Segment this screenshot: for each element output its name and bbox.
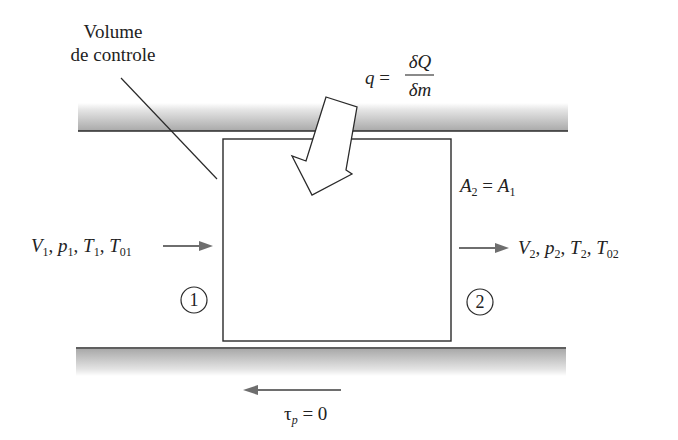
diagram-canvas xyxy=(0,0,678,440)
inlet-flow-arrow-icon xyxy=(163,241,213,251)
wall-shear-arrow-icon xyxy=(243,385,341,395)
heat-label: q = xyxy=(365,68,390,87)
inlet-state-label: V1, p1, T1, T01 xyxy=(31,236,132,258)
outlet-state-label: V2, p2, T2, T02 xyxy=(518,238,619,260)
control-volume-label-line1: Volume xyxy=(58,22,168,41)
control-volume-label-line2: de controle xyxy=(58,45,168,64)
heat-eq-sign: = xyxy=(379,67,390,88)
bottom-duct-wall xyxy=(76,348,566,376)
station-1-label: 1 xyxy=(184,291,204,309)
heat-q-symbol: q xyxy=(365,67,375,88)
area-label: A2 = A1 xyxy=(460,176,515,198)
heat-numerator: δQ xyxy=(403,52,437,71)
control-volume-label: Volume de controle xyxy=(58,22,168,64)
outlet-flow-arrow-icon xyxy=(459,243,509,253)
heat-denominator: δm xyxy=(403,80,437,99)
wall-shear-label: τp = 0 xyxy=(284,404,327,426)
station-2-label: 2 xyxy=(470,293,490,311)
control-volume-diagram: Volume de controle q = δQ δm A2 = A1 V1,… xyxy=(0,0,678,440)
